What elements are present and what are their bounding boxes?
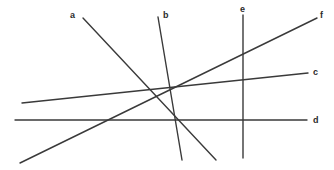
line-label-d: d — [313, 116, 319, 125]
line-diagram-figure: a b c d e f — [0, 0, 334, 170]
line-label-e: e — [240, 5, 245, 14]
line-label-f: f — [320, 11, 323, 20]
lines-canvas — [0, 0, 334, 170]
line-c — [22, 73, 308, 103]
line-label-a: a — [70, 11, 75, 20]
line-label-c: c — [313, 68, 318, 77]
line-label-b: b — [163, 11, 169, 20]
line-f — [20, 18, 317, 163]
